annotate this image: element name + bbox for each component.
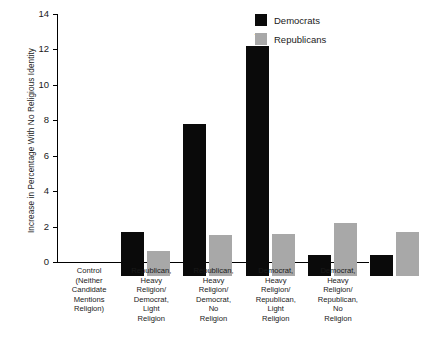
y-tick-8: 8 [0,120,57,121]
y-tick-4: 4 [0,191,57,192]
bar-democrats-2 [246,46,269,276]
legend-label: Republicans [274,34,326,45]
y-tick-mark [53,262,57,263]
y-tick-2: 2 [0,227,57,228]
y-tick-6: 6 [0,156,57,157]
bar-democrats-1 [183,124,206,276]
legend-swatch [255,14,267,26]
y-tick-label: 2 [44,221,49,232]
x-axis-labels: Control(Neither CandidateMentionsReligio… [58,266,369,324]
legend-item-republicans: Republicans [255,33,326,45]
y-tick-12: 12 [0,49,57,50]
y-tick-label: 10 [38,79,49,90]
y-tick-10: 10 [0,85,57,86]
y-tick-label: 14 [38,8,49,19]
bar-group [364,28,423,276]
y-axis-title: Increase in Percentage With No Religious… [27,6,36,276]
chart-legend: DemocratsRepublicans [255,14,326,52]
bar-democrats-4 [370,255,393,276]
y-tick-0: 0 [0,262,57,263]
bar-group [302,28,364,276]
x-axis-label-3: Democrat,HeavyReligion/Republican,LightR… [245,266,307,324]
x-axis-label-2: Republican,HeavyReligion/Democrat,NoReli… [182,266,244,324]
y-tick-label: 4 [44,185,49,196]
y-tick-label: 6 [44,150,49,161]
legend-label: Democrats [274,15,320,26]
x-axis-label-1: Republican,HeavyReligion/Democrat,LightR… [120,266,182,324]
y-tick-14: 14 [0,14,57,15]
y-tick-label: 8 [44,114,49,125]
y-tick-label: 0 [44,256,49,267]
bar-republicans-4 [396,232,419,276]
bar-group [115,28,177,276]
bar-group: * [239,28,301,276]
legend-swatch [255,33,267,45]
bar-group [177,28,239,276]
x-axis-label-4: Democrat,HeavyReligion/Republican,NoReli… [307,266,369,324]
x-axis-label-0: Control(Neither CandidateMentionsReligio… [58,266,120,324]
y-tick-label: 12 [38,43,49,54]
legend-item-democrats: Democrats [255,14,326,26]
bar-groups: * [115,28,423,276]
